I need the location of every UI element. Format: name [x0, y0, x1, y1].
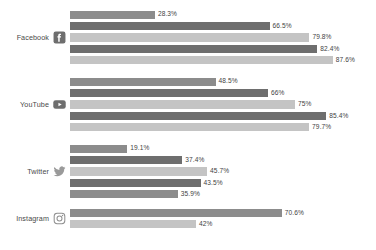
category-label-facebook: Facebook — [0, 31, 70, 44]
bar-value-label: 79.7% — [312, 124, 331, 131]
bar — [70, 145, 127, 153]
bar-stack: 70.6%42% — [70, 207, 376, 230]
bar — [70, 123, 309, 131]
bar — [70, 89, 268, 97]
bar — [70, 78, 216, 86]
bar — [70, 179, 201, 187]
category-label-twitter: Twitter — [0, 165, 70, 178]
bar-value-label: 48.5% — [219, 78, 238, 85]
bar — [70, 112, 326, 120]
bar — [70, 100, 295, 108]
bar — [70, 190, 178, 198]
bar-value-label: 70.6% — [285, 210, 304, 217]
bar-value-label: 43.5% — [204, 180, 223, 187]
bar-value-label: 35.9% — [181, 191, 200, 198]
bar-value-label: 82.4% — [320, 46, 339, 53]
bar-value-label: 42% — [199, 221, 213, 228]
category-name: Instagram — [16, 215, 49, 222]
bar — [70, 209, 282, 217]
bar-row: 66.5% — [70, 20, 376, 31]
bar-group-twitter: Twitter 19.1%37.4%45.7%43.5%35.9% — [0, 138, 376, 205]
bar-stack: 19.1%37.4%45.7%43.5%35.9% — [70, 143, 376, 200]
bar-value-label: 37.4% — [185, 157, 204, 164]
bar — [70, 33, 309, 41]
bar-row: 87.6% — [70, 55, 376, 66]
bar-row: 48.5% — [70, 76, 376, 87]
category-name: YouTube — [20, 101, 49, 108]
bar-row: 79.8% — [70, 32, 376, 43]
bar-row: 66% — [70, 87, 376, 98]
bar-row: 43.5% — [70, 177, 376, 188]
instagram-icon — [53, 212, 66, 225]
bar-group-youtube: YouTube 48.5%66%75%85.4%79.7% — [0, 71, 376, 138]
bar-row: 35.9% — [70, 189, 376, 200]
social-platform-bar-chart: Facebook 28.3%66.5%79.8%82.4%87.6%YouTub… — [0, 4, 376, 250]
bar-value-label: 85.4% — [329, 113, 348, 120]
youtube-icon — [53, 98, 66, 111]
bar-row: 82.4% — [70, 43, 376, 54]
bar-row: 70.6% — [70, 207, 376, 218]
bar-value-label: 28.3% — [158, 11, 177, 18]
category-name: Facebook — [17, 34, 49, 41]
bar-value-label: 66% — [271, 90, 285, 97]
bar-row: 45.7% — [70, 166, 376, 177]
category-name: Twitter — [27, 168, 49, 175]
bar-value-label: 75% — [298, 101, 312, 108]
bar-value-label: 45.7% — [210, 168, 229, 175]
bar-row: 79.7% — [70, 122, 376, 133]
bar-row: 28.3% — [70, 9, 376, 20]
bar-stack: 28.3%66.5%79.8%82.4%87.6% — [70, 9, 376, 66]
bar-row: 85.4% — [70, 110, 376, 121]
bar-row: 37.4% — [70, 154, 376, 165]
bar-stack: 48.5%66%75%85.4%79.7% — [70, 76, 376, 133]
bar — [70, 167, 207, 175]
bar — [70, 22, 270, 30]
bar-value-label: 87.6% — [336, 57, 355, 64]
bar — [70, 220, 196, 228]
bar — [70, 156, 182, 164]
bar — [70, 56, 333, 64]
twitter-icon — [53, 165, 66, 178]
bar-group-instagram: Instagram 70.6%42% — [0, 205, 376, 232]
bar-value-label: 19.1% — [130, 145, 149, 152]
bar-value-label: 79.8% — [312, 34, 331, 41]
bar-group-facebook: Facebook 28.3%66.5%79.8%82.4%87.6% — [0, 4, 376, 71]
category-label-instagram: Instagram — [0, 212, 70, 225]
bar-row: 19.1% — [70, 143, 376, 154]
category-label-youtube: YouTube — [0, 98, 70, 111]
facebook-icon — [53, 31, 66, 44]
bar-value-label: 66.5% — [273, 23, 292, 30]
bar-row: 75% — [70, 99, 376, 110]
bar — [70, 11, 155, 19]
bar — [70, 45, 317, 53]
bar-row: 42% — [70, 219, 376, 230]
